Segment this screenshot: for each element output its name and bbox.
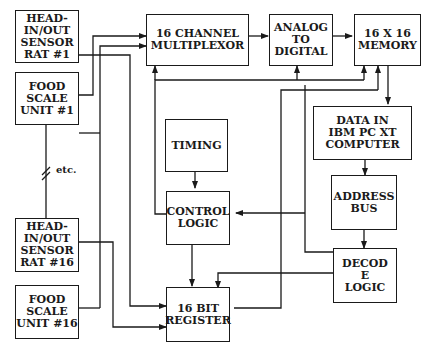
block-diagram: HEAD- IN/OUT SENSOR RAT #1 FOOD SCALE UN…: [0, 0, 428, 351]
block-label: 16 BIT REGISTER: [165, 303, 231, 327]
block-label: DATA IN IBM PC XT COMPUTER: [325, 115, 399, 151]
block-memory: 16 X 16 MEMORY: [354, 14, 421, 66]
sensor1-to-register: [79, 55, 166, 306]
block-label: ADDRESS BUS: [334, 191, 395, 215]
block-ibm-pc-xt: DATA IN IBM PC XT COMPUTER: [313, 106, 412, 160]
sensor16-to-register: [79, 242, 166, 327]
block-multiplexor: 16 CHANNEL MULTIPLEXOR: [146, 14, 249, 66]
block-analog-to-digital: ANALOG TO DIGITAL: [269, 14, 333, 66]
block-sensor-rat-1: HEAD- IN/OUT SENSOR RAT #1: [15, 10, 79, 63]
block-sensor-rat-16: HEAD- IN/OUT SENSOR RAT #16: [15, 218, 79, 272]
block-food-scale-1: FOOD SCALE UNIT #1: [15, 72, 79, 125]
block-label: HEAD- IN/OUT SENSOR RAT #16: [20, 221, 74, 269]
etc-annotation: etc.: [56, 164, 77, 175]
block-label: CONTROL LOGIC: [166, 206, 229, 230]
scale1-to-mux: [79, 36, 146, 95]
block-label: FOOD SCALE UNIT #16: [16, 294, 77, 330]
block-label: HEAD- IN/OUT SENSOR RAT #1: [20, 13, 73, 61]
block-label: ANALOG TO DIGITAL: [274, 22, 328, 58]
block-timing: TIMING: [165, 119, 228, 172]
block-label: 16 X 16 MEMORY: [358, 28, 417, 52]
block-label: 16 CHANNEL MULTIPLEXOR: [151, 28, 244, 52]
block-label: TIMING: [171, 140, 221, 152]
block-label: FOOD SCALE UNIT #1: [20, 81, 74, 117]
block-label: DECOD E LOGIC: [342, 258, 388, 294]
block-decode-logic: DECOD E LOGIC: [333, 248, 397, 303]
block-address-bus: ADDRESS BUS: [331, 175, 397, 230]
scale16-to-mux: [100, 46, 146, 308]
block-food-scale-16: FOOD SCALE UNIT #16: [15, 285, 79, 339]
block-control-logic: CONTROL LOGIC: [166, 191, 230, 245]
block-16-bit-register: 16 BIT REGISTER: [166, 287, 230, 342]
